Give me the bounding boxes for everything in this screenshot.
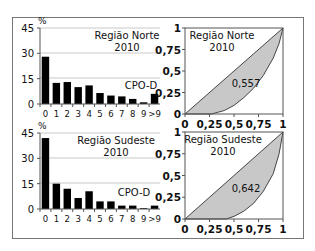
y-tick-label: 45 — [21, 128, 34, 139]
x-tick-label: 9 — [141, 109, 146, 119]
lorenz-chart-sudeste: 00,250,50,75100,250,50,751 Região Sudest… — [155, 126, 287, 235]
x-tick-label: 5 — [97, 109, 102, 119]
x-tick-label: 9 — [141, 214, 146, 224]
x-tick-label: 0,25 — [197, 118, 223, 130]
bar — [64, 189, 71, 209]
x-tick-label: 0,75 — [246, 223, 272, 235]
y-tick-label: 1 — [174, 22, 181, 34]
x-tick-label: 6 — [108, 214, 113, 224]
bar-chart-norte: 0123456789>90153045 % Região Norte 2010 … — [21, 16, 161, 119]
x-tick-label: 8 — [130, 214, 135, 224]
bar — [107, 201, 114, 209]
y-tick-label: 0 — [28, 99, 34, 110]
bar — [118, 96, 125, 104]
chart-title: Região Norte — [95, 30, 160, 41]
y-tick-label: 0,75 — [155, 148, 181, 160]
bar — [129, 99, 136, 104]
y-tick-label: 1 — [174, 126, 181, 138]
bar-chart-sudeste: 0123456789>90153045 % Região Sudeste 201… — [21, 121, 161, 224]
x-tick-label: 4 — [86, 214, 91, 224]
bar — [42, 138, 49, 209]
x-tick-label: 0 — [43, 214, 48, 224]
x-tick-label: 0,5 — [225, 223, 244, 235]
chart-title: Região Sudeste — [184, 134, 262, 145]
y-unit-label: % — [38, 121, 47, 131]
chart-title: Região Norte — [190, 30, 255, 41]
gini-value: 0,642 — [232, 183, 261, 194]
x-tick-label: 1 — [54, 109, 59, 119]
x-tick-label: 8 — [130, 109, 135, 119]
bar — [118, 206, 125, 209]
y-tick-label: 45 — [21, 23, 34, 34]
bar — [96, 201, 103, 209]
x-tick-label: 6 — [108, 109, 113, 119]
chart-annotation: CPO-D — [118, 187, 151, 198]
x-tick-label: 0 — [43, 109, 48, 119]
y-tick-label: 0,25 — [155, 87, 181, 99]
x-tick-label: 2 — [65, 214, 70, 224]
y-tick-label: 0 — [28, 204, 34, 215]
bar — [64, 82, 71, 104]
bar — [85, 85, 92, 104]
y-tick-label: 0,5 — [162, 65, 181, 77]
lorenz-chart-norte: 00,250,50,75100,250,50,751 Região Norte … — [155, 22, 287, 130]
gini-value: 0,557 — [232, 78, 261, 89]
x-tick-label: 0,25 — [197, 223, 223, 235]
bar — [53, 83, 60, 104]
bar — [74, 87, 81, 104]
y-tick-label: 0 — [174, 213, 181, 225]
chart-subtitle: 2010 — [114, 42, 139, 53]
y-tick-label: 15 — [21, 74, 34, 85]
x-tick-label: >9 — [148, 214, 161, 224]
bar — [129, 206, 136, 209]
chart-annotation: CPO-D — [125, 80, 158, 91]
bar — [107, 96, 114, 104]
chart-subtitle: 2010 — [103, 147, 128, 158]
x-tick-label: 7 — [119, 214, 124, 224]
y-tick-label: 0,5 — [162, 170, 181, 182]
bar — [85, 191, 92, 209]
x-tick-label: 5 — [97, 214, 102, 224]
y-unit-label: % — [38, 16, 47, 26]
bar — [74, 198, 81, 209]
y-tick-label: 30 — [21, 153, 34, 164]
chart-canvas: 0123456789>90153045 % Região Norte 2010 … — [0, 0, 315, 251]
x-tick-label: 0 — [181, 118, 188, 130]
x-tick-label: 0,5 — [225, 118, 244, 130]
chart-title: Região Sudeste — [77, 135, 155, 146]
bar — [151, 206, 158, 209]
x-tick-label: 0 — [181, 223, 188, 235]
x-tick-label: 0,75 — [246, 118, 272, 130]
y-tick-label: 0 — [174, 108, 181, 120]
x-tick-label: >9 — [148, 109, 161, 119]
x-tick-label: 1 — [279, 118, 286, 130]
y-tick-label: 30 — [21, 48, 34, 59]
y-tick-label: 0,75 — [155, 44, 181, 56]
bar — [42, 57, 49, 104]
bar — [96, 93, 103, 104]
y-tick-label: 15 — [21, 179, 34, 190]
x-tick-label: 2 — [65, 109, 70, 119]
chart-subtitle: 2010 — [209, 42, 234, 53]
bar — [53, 184, 60, 209]
y-tick-label: 0,25 — [155, 191, 181, 203]
x-tick-label: 3 — [75, 214, 80, 224]
x-tick-label: 1 — [279, 223, 286, 235]
x-tick-label: 7 — [119, 109, 124, 119]
x-tick-label: 4 — [86, 109, 91, 119]
bars — [42, 138, 159, 209]
x-tick-label: 3 — [75, 109, 80, 119]
chart-subtitle: 2010 — [210, 146, 235, 157]
x-tick-label: 1 — [54, 214, 59, 224]
